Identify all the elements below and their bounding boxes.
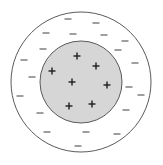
charge-diagram-canvas (0, 0, 163, 165)
charge-diagram (0, 0, 163, 165)
inner-charged-sphere (40, 41, 122, 123)
